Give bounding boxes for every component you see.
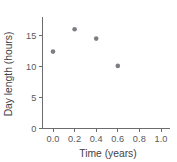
data-point bbox=[116, 64, 121, 69]
x-tick-label: 0.4 bbox=[90, 134, 103, 144]
y-tick-label: 0 bbox=[31, 124, 36, 134]
data-points bbox=[51, 27, 120, 68]
x-tick-label: 0.8 bbox=[133, 134, 146, 144]
x-tick-label: 0.6 bbox=[111, 134, 124, 144]
data-point bbox=[72, 27, 77, 32]
scatter-chart: 051015 0.00.20.40.60.81.0 Day length (ho… bbox=[0, 0, 177, 162]
y-tick-label: 10 bbox=[26, 62, 36, 72]
x-tick-label: 0.0 bbox=[46, 134, 59, 144]
x-axis-ticks: 0.00.20.40.60.81.0 bbox=[46, 128, 167, 144]
data-point bbox=[94, 36, 99, 41]
y-tick-label: 15 bbox=[26, 31, 36, 41]
plot-area: 051015 0.00.20.40.60.81.0 Day length (ho… bbox=[0, 0, 177, 162]
x-axis-title: Time (years) bbox=[79, 148, 136, 159]
data-point bbox=[51, 49, 56, 54]
y-tick-label: 5 bbox=[31, 93, 36, 103]
y-axis-ticks: 051015 bbox=[26, 31, 43, 134]
y-axis-title: Day length (hours) bbox=[3, 32, 14, 117]
x-tick-label: 0.2 bbox=[68, 134, 81, 144]
x-tick-label: 1.0 bbox=[154, 134, 167, 144]
